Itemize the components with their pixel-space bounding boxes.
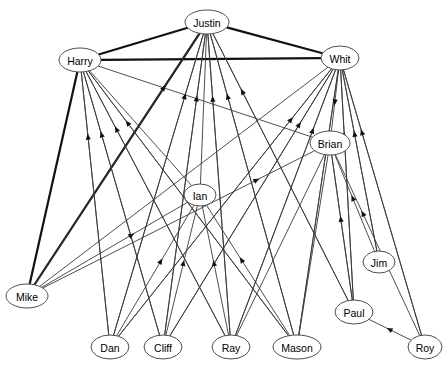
arrowhead-layer [86,85,393,333]
graph-node-justin[interactable]: Justin [185,10,229,34]
edge-arrowhead-icon [309,128,314,135]
graph-node-roy[interactable]: Roy [408,335,442,359]
graph-edge [343,70,421,335]
node-ellipse[interactable] [363,251,395,273]
graph-edge [99,28,188,55]
edge-arrowhead-icon [100,131,105,137]
graph-edge [88,71,288,336]
graph-node-ian[interactable]: Ian [184,184,216,206]
edge-arrowhead-icon [157,259,162,265]
edge-arrowhead-icon [210,96,215,102]
graph-node-paul[interactable]: Paul [335,300,373,324]
graph-node-whit[interactable]: Whit [321,46,359,70]
graph-edge [335,155,375,252]
edge-arrowhead-icon [126,120,132,126]
node-ellipse[interactable] [59,48,101,72]
graph-node-jim[interactable]: Jim [363,251,395,273]
graph-edge [30,72,78,284]
node-ellipse[interactable] [144,335,182,359]
node-ellipse[interactable] [185,10,229,34]
graph-edge [42,202,188,287]
graph-edge [342,70,377,251]
graph-edge [90,71,192,186]
edge-arrowhead-icon [194,95,199,101]
graph-node-mike[interactable]: Mike [6,284,48,308]
node-ellipse[interactable] [321,46,359,70]
node-ellipse[interactable] [6,284,48,308]
graph-edge [299,155,328,335]
graph-node-dan[interactable]: Dan [91,335,129,359]
graph-node-harry[interactable]: Harry [59,48,101,72]
network-graph-svg: JustinHarryWhitBrianIanJimMikePaulDanCli… [0,0,444,369]
graph-edge [237,155,325,336]
graph-edge [227,27,323,53]
node-ellipse[interactable] [273,335,321,359]
node-ellipse[interactable] [310,131,350,155]
network-graph-canvas: JustinHarryWhitBrianIanJimMikePaulDanCli… [0,0,444,369]
edge-arrowhead-icon [287,117,293,123]
graph-edge [34,33,199,284]
graph-edge [210,34,293,335]
node-ellipse[interactable] [91,335,129,359]
edge-arrowhead-icon [86,134,91,140]
edge-arrowhead-icon [240,257,245,263]
edge-arrowhead-icon [360,129,365,135]
node-ellipse[interactable] [212,335,250,359]
node-ellipse[interactable] [408,335,442,359]
graph-edge [101,58,321,60]
graph-edge [299,70,338,335]
edge-arrowhead-icon [295,122,300,128]
edge-arrowhead-icon [212,260,217,266]
graph-node-brian[interactable]: Brian [310,131,350,155]
graph-node-cliff[interactable]: Cliff [144,335,182,359]
edge-arrowhead-icon [339,216,344,222]
node-layer: JustinHarryWhitBrianIanJimMikePaulDanCli… [6,10,442,359]
edge-arrowhead-icon [352,131,357,137]
edge-layer [30,27,422,340]
graph-edge [202,206,228,335]
node-ellipse[interactable] [184,184,216,206]
graph-edge [114,34,204,335]
node-ellipse[interactable] [335,300,373,324]
graph-node-mason[interactable]: Mason [273,335,321,359]
graph-node-ray[interactable]: Ray [212,335,250,359]
edge-arrowhead-icon [180,260,185,266]
